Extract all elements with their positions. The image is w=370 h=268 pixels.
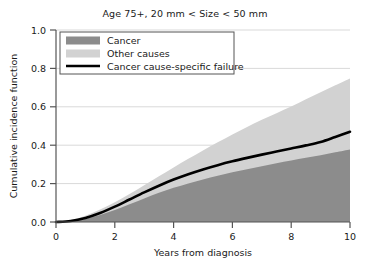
cumulative-incidence-plot: 1.0 0.8 0.6 0.4 0.2 0.0 0 2 4 6 8 10 Yea…: [0, 0, 370, 268]
x-tick-label-8: 8: [288, 231, 294, 242]
y-tick-label-0.0: 0.0: [31, 217, 46, 228]
y-tick-label-0.6: 0.6: [31, 101, 46, 112]
x-axis-title: Years from diagnosis: [153, 247, 252, 258]
y-tick-label-0.4: 0.4: [31, 140, 46, 151]
y-tick-label-1.0: 1.0: [31, 25, 46, 36]
y-tick-label-0.2: 0.2: [31, 178, 46, 189]
legend-swatch-cancer: [66, 37, 100, 45]
x-axis-ticks: 0 2 4 6 8 10: [53, 222, 356, 242]
y-axis-ticks: 1.0 0.8 0.6 0.4 0.2 0.0: [31, 25, 56, 228]
x-tick-label-10: 10: [344, 231, 356, 242]
chart-legend: Cancer Other causes Cancer cause-specifi…: [60, 32, 244, 74]
x-tick-label-2: 2: [112, 231, 118, 242]
legend-label-cancer: Cancer: [107, 35, 141, 46]
x-tick-label-4: 4: [171, 231, 177, 242]
chart-figure: Age 75+, 20 mm < Size < 50 mm: [0, 0, 370, 268]
legend-swatch-other-causes: [66, 50, 100, 58]
x-tick-label-6: 6: [229, 231, 235, 242]
legend-label-other-causes: Other causes: [107, 48, 170, 59]
y-axis-title: Cumulative incidence function: [8, 54, 19, 199]
x-tick-label-0: 0: [53, 231, 59, 242]
y-tick-label-0.8: 0.8: [31, 63, 46, 74]
legend-label-cancer-cause-specific-failure: Cancer cause-specific failure: [107, 61, 244, 72]
